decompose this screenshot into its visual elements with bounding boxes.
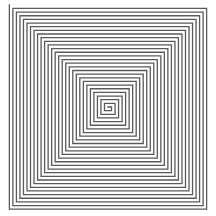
spiral-figure — [0, 0, 216, 216]
